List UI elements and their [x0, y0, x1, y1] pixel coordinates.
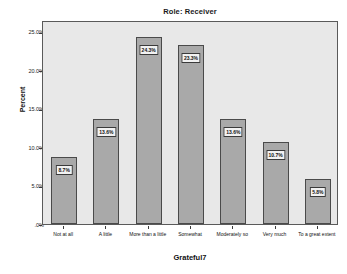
bar[interactable]	[136, 37, 162, 224]
x-category-label: Very much	[253, 231, 295, 237]
x-tick-mark	[232, 226, 233, 229]
bar[interactable]	[178, 45, 204, 224]
bar[interactable]	[305, 179, 331, 224]
bar-slot: 10.7%	[254, 22, 296, 224]
bar-value-label: 24.3%	[139, 45, 158, 55]
x-tick-mark	[148, 226, 149, 229]
y-tick-label: 20.0%	[0, 68, 44, 74]
x-category-label: A little	[84, 231, 126, 237]
plot-area: 8.7%13.6%24.3%23.3%13.6%10.7%5.8%	[42, 21, 338, 225]
bars-container: 8.7%13.6%24.3%23.3%13.6%10.7%5.8%	[43, 22, 337, 224]
y-tick-label: 5.0%	[0, 183, 44, 189]
bar-value-label: 5.8%	[310, 187, 326, 197]
x-category-label: Somewhat	[169, 231, 211, 237]
y-tick-label: .0%	[0, 222, 44, 228]
bar-value-label: 13.6%	[97, 127, 116, 137]
bar-value-label: 23.3%	[181, 53, 200, 63]
x-tick-mark	[63, 226, 64, 229]
bar-value-label: 10.7%	[266, 150, 285, 160]
x-category-label: Not at all	[42, 231, 84, 237]
x-tick-mark	[190, 226, 191, 229]
x-tick-mark	[317, 226, 318, 229]
x-category-label: Moderately so	[211, 231, 253, 237]
bar-value-label: 8.7%	[56, 165, 72, 175]
chart-title: Role: Receiver	[42, 7, 338, 16]
bar-chart: Role: Receiver Percent .0%5.0%10.0%15.0%…	[0, 0, 347, 274]
x-tick-mark	[275, 226, 276, 229]
x-tick-mark	[105, 226, 106, 229]
bar-slot: 13.6%	[85, 22, 127, 224]
bar-value-label: 13.6%	[224, 127, 243, 137]
y-tick-label: 10.0%	[0, 145, 44, 151]
bar-slot: 13.6%	[212, 22, 254, 224]
bar-slot: 23.3%	[170, 22, 212, 224]
x-axis-title: Grateful7	[42, 253, 338, 262]
bar-slot: 24.3%	[128, 22, 170, 224]
x-axis: Not at allA littleMore than a littleSome…	[42, 226, 338, 252]
y-tick-label: 15.0%	[0, 106, 44, 112]
bar-slot: 5.8%	[297, 22, 339, 224]
x-category-label: More than a little	[127, 231, 169, 237]
y-tick-label: 25.0%	[0, 29, 44, 35]
x-category-label: To a great extent	[296, 231, 338, 237]
bar-slot: 8.7%	[43, 22, 85, 224]
y-axis-title: Percent	[19, 70, 26, 130]
